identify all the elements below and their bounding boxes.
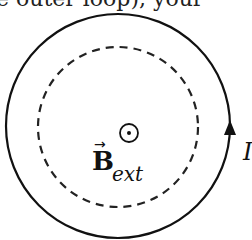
field-label-subscript: ext xyxy=(112,162,143,186)
current-direction-arrow-icon xyxy=(224,120,236,135)
current-label: I xyxy=(243,138,252,166)
field-label-b: B xyxy=(92,146,114,176)
field-out-of-page-icon xyxy=(120,124,138,142)
loop-diagram xyxy=(0,0,252,240)
outer-loop xyxy=(6,14,230,238)
